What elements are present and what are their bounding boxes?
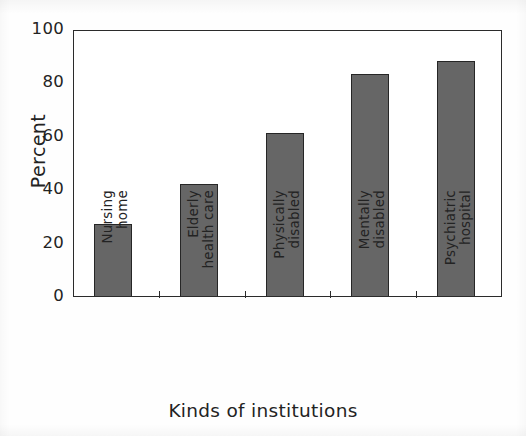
x-axis-tick bbox=[245, 291, 246, 298]
category-label-line-1: Physically bbox=[271, 190, 287, 259]
category-label-line-1: Psychiatric bbox=[442, 190, 458, 265]
y-axis-tick-label: 0 bbox=[2, 286, 64, 305]
x-axis-category-label: Mentallydisabled bbox=[357, 190, 387, 306]
y-axis-tick-label: 40 bbox=[2, 179, 64, 198]
category-label-line-2: disabled bbox=[372, 190, 387, 306]
category-label-line-1: Elderly bbox=[185, 190, 201, 238]
y-axis-tick-label: 100 bbox=[2, 19, 64, 38]
category-label-line-2: hospital bbox=[458, 190, 473, 306]
x-axis-tick bbox=[159, 291, 160, 298]
bar-chart-figure: Percent 020406080100 NursinghomeElderlyh… bbox=[0, 0, 526, 436]
x-axis-category-label: Nursinghome bbox=[100, 190, 130, 306]
x-axis-title: Kinds of institutions bbox=[0, 400, 526, 421]
y-axis-tick-label: 80 bbox=[2, 72, 64, 91]
x-axis-category-label: Physicallydisabled bbox=[272, 190, 302, 306]
category-label-line-2: health care bbox=[201, 190, 216, 306]
category-label-line-2: home bbox=[115, 190, 130, 306]
x-axis-tick bbox=[330, 291, 331, 298]
x-axis-category-label: Psychiatrichospital bbox=[443, 190, 473, 306]
y-axis-tick-label: 60 bbox=[2, 126, 64, 145]
x-axis-tick bbox=[416, 291, 417, 298]
category-label-line-2: disabled bbox=[287, 190, 302, 306]
category-label-line-1: Nursing bbox=[99, 190, 115, 244]
x-axis-category-label: Elderlyhealth care bbox=[186, 190, 216, 306]
y-axis-tick-label: 20 bbox=[2, 233, 64, 252]
